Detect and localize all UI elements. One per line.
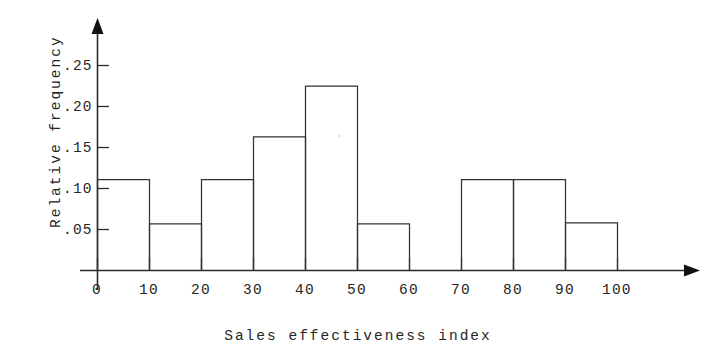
x-tick-label-20: 20 — [191, 282, 211, 298]
histogram-bar — [98, 180, 150, 271]
x-tick-label-40: 40 — [295, 282, 315, 298]
x-axis-title: Sales effectiveness index — [0, 328, 716, 344]
y-axis-ticks — [98, 66, 110, 230]
y-tick-label-10: .10 — [63, 181, 93, 197]
histogram-bar — [462, 180, 514, 271]
histogram-bar — [358, 224, 410, 271]
histogram-bar — [306, 86, 358, 271]
x-tick-label-80: 80 — [503, 282, 523, 298]
y-tick-label-20: .20 — [63, 99, 93, 115]
y-axis-title: Relative frequency — [48, 35, 64, 228]
y-tick-label-05: .05 — [63, 222, 93, 238]
histogram-bar — [150, 224, 202, 271]
x-tick-label-50: 50 — [347, 282, 367, 298]
y-tick-label-25: .25 — [63, 58, 93, 74]
x-tick-label-30: 30 — [243, 282, 263, 298]
histogram-bar — [566, 223, 618, 271]
y-axis-arrow-icon — [92, 18, 104, 34]
histogram-bar — [514, 180, 566, 271]
x-tick-label-100: 100 — [602, 282, 632, 298]
histogram-bar — [254, 137, 306, 271]
chart-canvas — [0, 0, 716, 356]
x-tick-label-0: 0 — [92, 282, 102, 298]
x-tick-label-60: 60 — [399, 282, 419, 298]
histogram-bar — [202, 180, 254, 271]
x-tick-label-10: 10 — [139, 282, 159, 298]
histogram-figure: 0 10 20 30 40 50 60 70 80 90 100 .05 .10… — [0, 0, 716, 356]
scan-speck — [338, 135, 340, 137]
x-axis-arrow-icon — [684, 265, 700, 277]
x-tick-label-70: 70 — [451, 282, 471, 298]
histogram-bars — [98, 86, 618, 271]
y-tick-label-15: .15 — [63, 140, 93, 156]
x-tick-label-90: 90 — [555, 282, 575, 298]
